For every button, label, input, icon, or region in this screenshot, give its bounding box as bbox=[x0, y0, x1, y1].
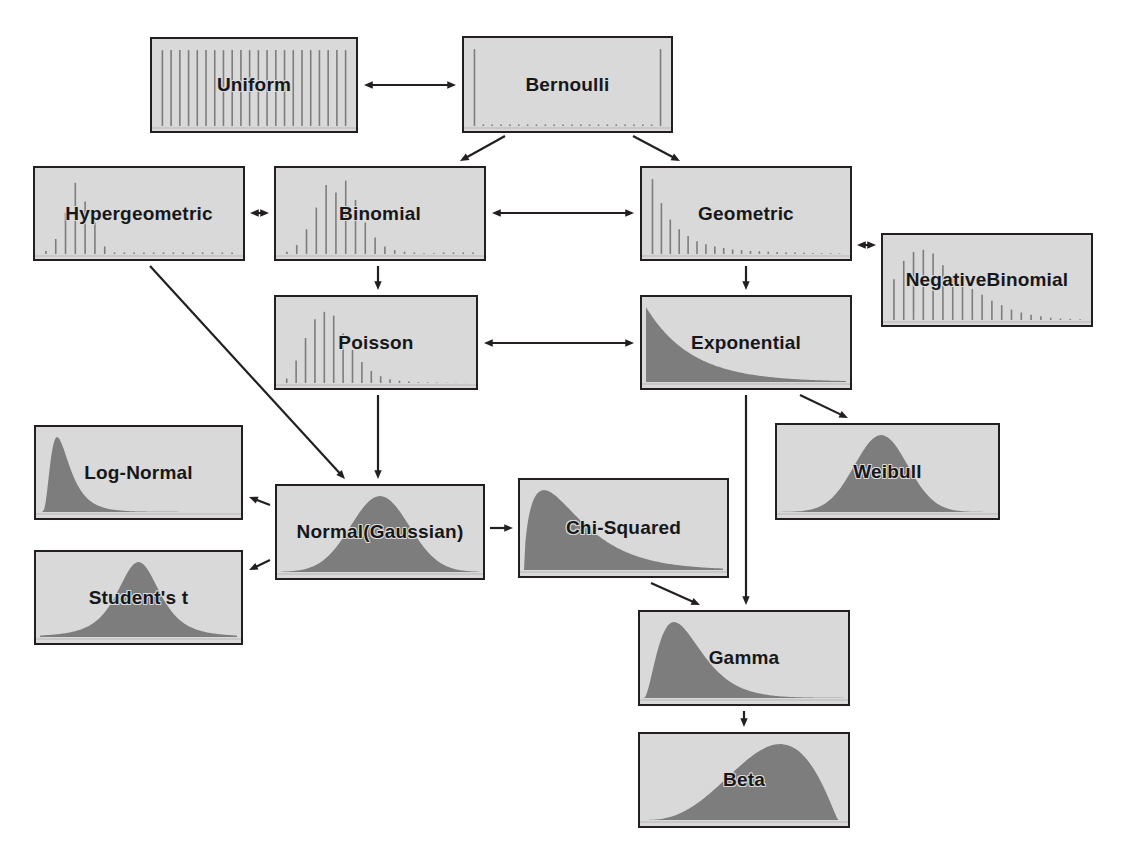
distribution-label-normal: Normal(Gaussian) bbox=[277, 486, 483, 578]
distribution-node-chi-squared[interactable]: Chi-Squared bbox=[518, 478, 729, 578]
distribution-label-log-normal: Log-Normal bbox=[36, 427, 241, 518]
edge-normal-students-t bbox=[249, 560, 270, 570]
distribution-node-students-t[interactable]: Student's t bbox=[34, 550, 243, 645]
distribution-label-gamma: Gamma bbox=[640, 612, 848, 704]
distribution-label-geometric: Geometric bbox=[642, 168, 850, 259]
edge-bernoulli-geometric bbox=[633, 136, 680, 161]
edge-hypergeometric-binomial bbox=[250, 209, 269, 216]
distribution-node-beta[interactable]: Beta bbox=[638, 732, 850, 828]
label-line-1: Student's t bbox=[89, 587, 189, 608]
distribution-label-uniform: Uniform bbox=[152, 39, 356, 131]
distribution-label-bernoulli: Bernoulli bbox=[464, 38, 671, 131]
distribution-label-negative-binomial: NegativeBinomial bbox=[883, 235, 1091, 325]
distribution-node-normal[interactable]: Normal(Gaussian) bbox=[275, 484, 485, 580]
distribution-node-negative-binomial[interactable]: NegativeBinomial bbox=[881, 233, 1093, 327]
label-line-1: Log-Normal bbox=[84, 462, 193, 483]
label-line-1: Hypergeometric bbox=[65, 203, 212, 224]
distribution-label-binomial: Binomial bbox=[276, 168, 484, 259]
distribution-label-chi-squared: Chi-Squared bbox=[520, 480, 727, 576]
distribution-node-exponential[interactable]: Exponential bbox=[640, 295, 852, 390]
label-line-1: Beta bbox=[723, 769, 765, 790]
distribution-node-poisson[interactable]: Poisson bbox=[274, 295, 478, 390]
label-line-1: Poisson bbox=[338, 332, 413, 353]
distribution-node-gamma[interactable]: Gamma bbox=[638, 610, 850, 706]
label-line-1: Weibull bbox=[853, 461, 922, 482]
distribution-label-students-t: Student's t bbox=[36, 552, 241, 643]
distribution-node-weibull[interactable]: Weibull bbox=[775, 423, 1000, 520]
label-line-1: Gamma bbox=[709, 647, 780, 668]
edge-geometric-negative-binomial bbox=[857, 241, 876, 248]
distribution-node-uniform[interactable]: Uniform bbox=[150, 37, 358, 133]
distribution-node-geometric[interactable]: Geometric bbox=[640, 166, 852, 261]
label-line-1: Normal bbox=[297, 521, 364, 542]
distribution-node-log-normal[interactable]: Log-Normal bbox=[34, 425, 243, 520]
distribution-node-bernoulli[interactable]: Bernoulli bbox=[462, 36, 673, 133]
edge-exponential-gamma bbox=[742, 395, 749, 605]
distribution-label-poisson: Poisson bbox=[276, 297, 476, 388]
edge-poisson-normal bbox=[374, 395, 381, 479]
edge-bernoulli-binomial bbox=[460, 136, 505, 161]
edge-chi-squared-gamma bbox=[651, 583, 700, 605]
edge-geometric-exponential bbox=[742, 266, 749, 290]
distribution-node-hypergeometric[interactable]: Hypergeometric bbox=[33, 166, 245, 261]
edge-exponential-weibull bbox=[800, 395, 848, 418]
edge-gamma-beta bbox=[740, 711, 747, 727]
label-line-1: Uniform bbox=[217, 74, 291, 95]
distribution-label-hypergeometric: Hypergeometric bbox=[35, 168, 243, 259]
label-line-1: Chi-Squared bbox=[566, 517, 681, 538]
distribution-label-weibull: Weibull bbox=[777, 425, 998, 518]
edge-binomial-poisson bbox=[374, 266, 381, 290]
label-line-1: Geometric bbox=[698, 203, 794, 224]
edge-uniform-bernoulli bbox=[364, 81, 456, 88]
distribution-relationship-diagram: UniformBernoulliHypergeometricBinomialGe… bbox=[0, 0, 1122, 862]
label-line-2: Binomial bbox=[986, 269, 1068, 290]
edge-poisson-exponential bbox=[484, 339, 634, 346]
label-line-1: Exponential bbox=[691, 332, 801, 353]
edge-normal-chi-squared bbox=[490, 524, 513, 531]
distribution-label-beta: Beta bbox=[640, 734, 848, 826]
edge-binomial-geometric bbox=[492, 209, 634, 216]
distribution-label-exponential: Exponential bbox=[642, 297, 850, 388]
distribution-node-binomial[interactable]: Binomial bbox=[274, 166, 486, 261]
label-line-1: Binomial bbox=[339, 203, 421, 224]
label-line-1: Bernoulli bbox=[525, 74, 609, 95]
label-line-2: (Gaussian) bbox=[363, 521, 463, 542]
label-line-1: Negative bbox=[906, 269, 987, 290]
edge-normal-log-normal bbox=[249, 497, 270, 505]
